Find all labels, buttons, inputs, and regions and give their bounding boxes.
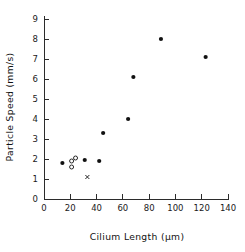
y-tick-label: 7	[33, 54, 38, 64]
y-tick-label: 0	[33, 194, 38, 204]
x-axis-ticks	[44, 194, 228, 199]
x-tick-label: 140	[220, 203, 236, 213]
y-axis-ticks	[44, 19, 49, 199]
x-tick-label: 20	[65, 203, 76, 213]
x-tick-label: 80	[144, 203, 155, 213]
x-axis-label: Cilium Length (µm)	[90, 231, 185, 242]
y-tick-label: 4	[33, 114, 38, 124]
data-point	[204, 55, 208, 59]
x-tick-label: 60	[117, 203, 128, 213]
data-point-group	[60, 37, 207, 179]
data-point	[85, 175, 89, 179]
data-point	[74, 156, 78, 160]
y-tick-label: 5	[33, 94, 38, 104]
y-tick-label: 6	[33, 74, 38, 84]
x-tick-label: 120	[194, 203, 210, 213]
scatter-chart-figure: 0123456789 020406080100120140 Particle S…	[0, 0, 245, 252]
data-point	[159, 37, 163, 41]
y-tick-label: 1	[33, 174, 38, 184]
x-tick-label: 0	[41, 203, 46, 213]
data-point	[83, 158, 87, 162]
x-tick-label: 100	[167, 203, 183, 213]
y-tick-label: 9	[33, 14, 38, 24]
y-axis-label: Particle Speed (mm/s)	[4, 53, 15, 162]
data-point	[97, 159, 101, 163]
data-point	[60, 161, 64, 165]
x-tick-label: 40	[91, 203, 102, 213]
y-axis-tick-labels: 0123456789	[33, 14, 38, 204]
data-point	[70, 159, 74, 163]
data-point	[131, 75, 135, 79]
y-tick-label: 8	[33, 34, 38, 44]
data-point	[70, 165, 74, 169]
data-point	[126, 117, 130, 121]
data-point	[101, 131, 105, 135]
scatter-plot-svg: 0123456789 020406080100120140 Particle S…	[0, 0, 245, 252]
y-tick-label: 2	[33, 154, 38, 164]
x-axis-tick-labels: 020406080100120140	[41, 203, 236, 213]
y-tick-label: 3	[33, 134, 38, 144]
